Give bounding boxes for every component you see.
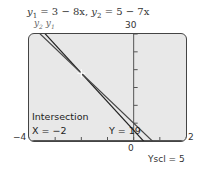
x-tick-label-right: 2 — [188, 132, 194, 142]
calculator-screen: Intersection X = −2 Y = 19 — [28, 33, 187, 142]
eq-y1-rhs: = 3 − 8x, — [37, 6, 91, 17]
x-tick-label-origin: 0 — [128, 143, 134, 153]
intersection-y: Y = 19 — [109, 125, 141, 136]
series-label-y1: y — [43, 18, 51, 28]
y-tick-label-top: 30 — [125, 20, 136, 30]
x-tick-label-left: −4 — [13, 132, 26, 142]
intersection-title: Intersection — [32, 111, 89, 122]
series-labels: y2 y1 — [34, 18, 55, 30]
yscl-label: Yscl = 5 — [148, 154, 185, 164]
eq-y2-rhs: = 5 − 7x — [101, 6, 149, 17]
series-label-y1-sub: 1 — [51, 23, 55, 30]
intersection-x: X = −2 — [32, 125, 67, 136]
